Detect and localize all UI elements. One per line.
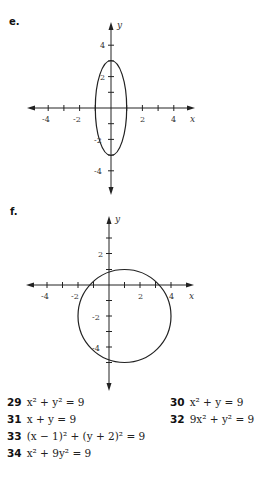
problem-32: 329x² + y² = 9 — [170, 413, 254, 425]
problem-33: 33(x − 1)² + (y + 2)² = 9 — [7, 430, 145, 442]
problem-34: 34x² + 9y² = 9 — [7, 447, 91, 459]
problem-29: 29x² + y² = 9 — [7, 396, 85, 408]
problem-30: 30x² + y = 9 — [170, 396, 243, 408]
problem-31: 31x + y = 9 — [7, 413, 76, 425]
problem-list: 29x² + y² = 9 30x² + y = 9 31x + y = 9 3… — [0, 0, 255, 480]
